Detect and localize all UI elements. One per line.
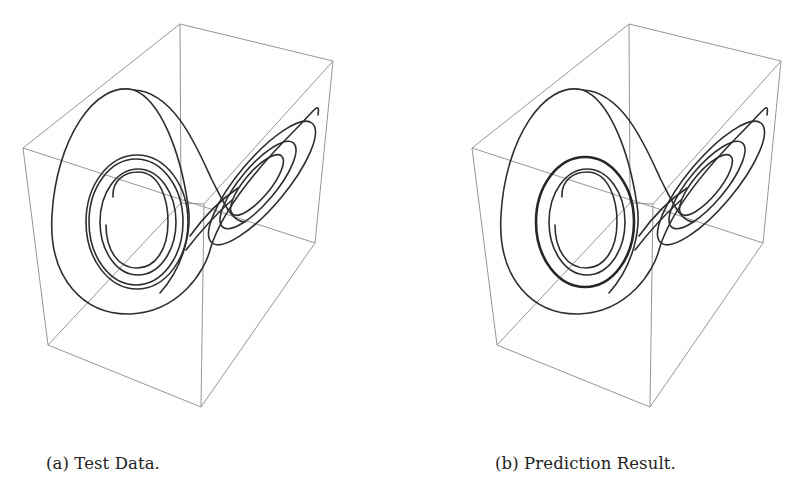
caption-a: (a) Test Data. [46, 454, 160, 473]
bounding-box [472, 24, 781, 407]
attractor-plot-test [0, 0, 392, 440]
caption-b: (b) Prediction Result. [495, 454, 676, 473]
panel-test-data: (a) Test Data. [0, 0, 392, 499]
panel-prediction-result: (b) Prediction Result. [449, 0, 785, 499]
attractor-plot-prediction [449, 0, 785, 440]
bounding-box [23, 24, 333, 407]
